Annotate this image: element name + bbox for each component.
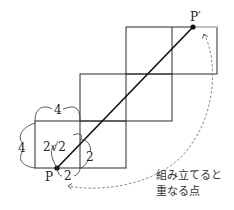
point-p-prime bbox=[190, 24, 195, 29]
label-dim-top: 4 bbox=[54, 103, 62, 117]
label-p: P bbox=[45, 170, 53, 184]
diagonal-segment bbox=[57, 27, 193, 168]
note-line-2: 重なる点 bbox=[156, 184, 200, 198]
fold-arrow bbox=[68, 34, 213, 188]
note-line-1: 組み立てると bbox=[156, 168, 222, 182]
arrowhead-top-icon bbox=[203, 34, 208, 39]
label-dim-right: 2 bbox=[86, 150, 94, 164]
label-dim-left: 4 bbox=[18, 141, 26, 155]
net-diagram: P P′ 4 4 2√2 2 2 組み立てると 重なる点 bbox=[0, 0, 234, 210]
label-dim-diagonal: 2√2 bbox=[43, 140, 66, 154]
label-p-prime: P′ bbox=[190, 10, 201, 24]
label-dim-bottom: 2 bbox=[64, 169, 72, 183]
